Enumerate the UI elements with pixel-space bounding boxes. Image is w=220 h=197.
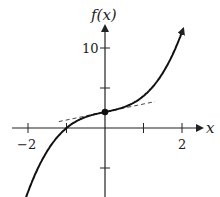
point-at-origin xyxy=(102,109,109,116)
x-tick-label-2: 2 xyxy=(178,137,186,152)
y-tick-label-10: 10 xyxy=(82,41,99,56)
function-graph: x f(x) −2 2 10 xyxy=(0,0,220,197)
x-tick-label-neg2: −2 xyxy=(17,137,36,152)
x-axis-label: x xyxy=(206,119,215,137)
y-axis-label: f(x) xyxy=(90,6,117,24)
